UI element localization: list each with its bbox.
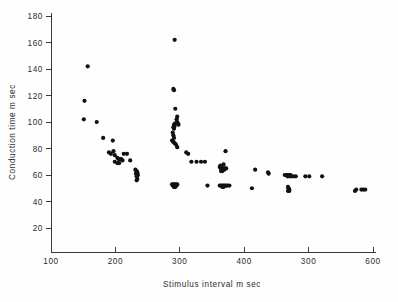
data-point bbox=[111, 149, 115, 153]
data-point bbox=[117, 161, 121, 165]
data-point bbox=[221, 185, 225, 189]
data-point bbox=[221, 162, 225, 166]
x-tick-label: 300 bbox=[172, 257, 187, 266]
scatter-plot-figure: 100200300400300600 204060801001201401601… bbox=[0, 0, 398, 302]
data-point bbox=[82, 117, 86, 121]
data-point bbox=[220, 169, 224, 173]
data-point bbox=[223, 149, 227, 153]
y-tick-label: 40 bbox=[33, 198, 43, 207]
data-point bbox=[86, 64, 90, 68]
tick-marks-group bbox=[46, 16, 373, 252]
y-tick-label: 100 bbox=[28, 118, 43, 127]
data-point bbox=[125, 152, 129, 156]
data-point bbox=[128, 158, 132, 162]
data-point bbox=[173, 185, 177, 189]
x-tick-labels-group: 100200300400300600 bbox=[43, 257, 380, 266]
data-point bbox=[320, 174, 324, 178]
data-point bbox=[203, 160, 207, 164]
x-tick-label: 400 bbox=[236, 257, 251, 266]
data-point bbox=[189, 160, 193, 164]
data-point bbox=[199, 160, 203, 164]
data-point bbox=[82, 99, 86, 103]
x-tick-label: 300 bbox=[301, 257, 316, 266]
data-point bbox=[95, 120, 99, 124]
data-point bbox=[194, 160, 198, 164]
data-points-group bbox=[82, 38, 368, 193]
data-point bbox=[173, 107, 177, 111]
data-point bbox=[205, 184, 209, 188]
data-point bbox=[303, 174, 307, 178]
y-tick-label: 20 bbox=[33, 224, 43, 233]
data-point bbox=[135, 178, 139, 182]
data-point bbox=[287, 189, 291, 193]
data-point bbox=[172, 127, 176, 131]
x-tick-label: 600 bbox=[365, 257, 380, 266]
y-tick-label: 140 bbox=[28, 65, 43, 74]
data-point bbox=[111, 138, 115, 142]
y-tick-label: 60 bbox=[33, 171, 43, 180]
data-point bbox=[120, 158, 124, 162]
data-point bbox=[294, 174, 298, 178]
data-point bbox=[227, 184, 231, 188]
data-point bbox=[267, 172, 271, 176]
x-tick-label: 100 bbox=[43, 257, 58, 266]
y-tick-label: 160 bbox=[28, 39, 43, 48]
data-point bbox=[354, 187, 358, 191]
data-point bbox=[253, 168, 257, 172]
x-tick-label: 200 bbox=[108, 257, 123, 266]
axes-group bbox=[51, 13, 376, 252]
data-point bbox=[101, 136, 105, 140]
x-axis-title: Stimulus interval m sec bbox=[163, 280, 261, 289]
y-axis-title: Conduction time m sec bbox=[8, 84, 17, 180]
data-point bbox=[173, 38, 177, 42]
data-point bbox=[172, 88, 176, 92]
data-point bbox=[186, 152, 190, 156]
data-point bbox=[176, 123, 180, 127]
data-point bbox=[175, 145, 179, 149]
data-point bbox=[363, 187, 367, 191]
y-tick-label: 120 bbox=[28, 92, 43, 101]
plot-canvas: 100200300400300600 204060801001201401601… bbox=[0, 0, 398, 302]
y-tick-label: 80 bbox=[33, 145, 43, 154]
data-point bbox=[250, 186, 254, 190]
data-point bbox=[307, 174, 311, 178]
y-tick-label: 180 bbox=[28, 12, 43, 21]
y-tick-labels-group: 20406080100120140160180 bbox=[28, 12, 43, 233]
